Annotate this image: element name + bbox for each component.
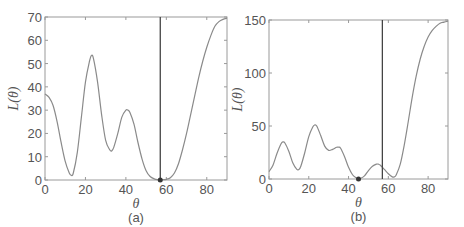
- minimum-marker: [356, 177, 361, 182]
- y-tick-label: 100: [244, 66, 266, 81]
- panel-b: 020406080050100150θL(θ)(b): [230, 13, 448, 224]
- x-tick-label: 20: [78, 182, 92, 197]
- y-tick-label: 50: [28, 57, 42, 72]
- y-tick-label: 10: [28, 150, 42, 165]
- panel-caption: (a): [128, 210, 144, 225]
- x-tick-label: 80: [421, 181, 435, 196]
- y-axis-label: L(θ): [230, 87, 246, 112]
- y-tick-label: 70: [28, 10, 42, 25]
- x-tick-label: 20: [302, 181, 316, 196]
- x-axis-label: θ: [133, 196, 140, 211]
- y-tick-label: 0: [259, 172, 266, 187]
- y-tick-label: 40: [28, 80, 42, 95]
- axes-frame: [45, 17, 227, 180]
- y-tick-label: 20: [28, 126, 42, 141]
- x-tick-label: 0: [41, 182, 48, 197]
- figure: 020406080010203040506070θL(θ)(a) 0204060…: [0, 0, 464, 227]
- panel-a: 020406080010203040506070θL(θ)(a): [6, 10, 227, 225]
- y-tick-label: 60: [28, 33, 42, 48]
- x-axis-label: θ: [355, 195, 362, 210]
- y-tick-label: 0: [35, 173, 42, 188]
- x-tick-label: 40: [341, 181, 355, 196]
- series-line: [45, 18, 227, 180]
- x-tick-label: 80: [200, 182, 214, 197]
- x-tick-label: 60: [381, 181, 395, 196]
- minimum-marker: [158, 178, 163, 183]
- x-tick-label: 40: [119, 182, 133, 197]
- axes-frame: [269, 20, 448, 179]
- x-tick-label: 60: [159, 182, 173, 197]
- panel-caption: (b): [351, 209, 367, 224]
- y-tick-label: 50: [252, 119, 266, 134]
- y-tick-label: 30: [28, 103, 42, 118]
- x-tick-label: 0: [265, 181, 272, 196]
- y-axis-label: L(θ): [6, 86, 22, 111]
- series-line: [269, 21, 448, 179]
- y-tick-label: 150: [244, 13, 266, 28]
